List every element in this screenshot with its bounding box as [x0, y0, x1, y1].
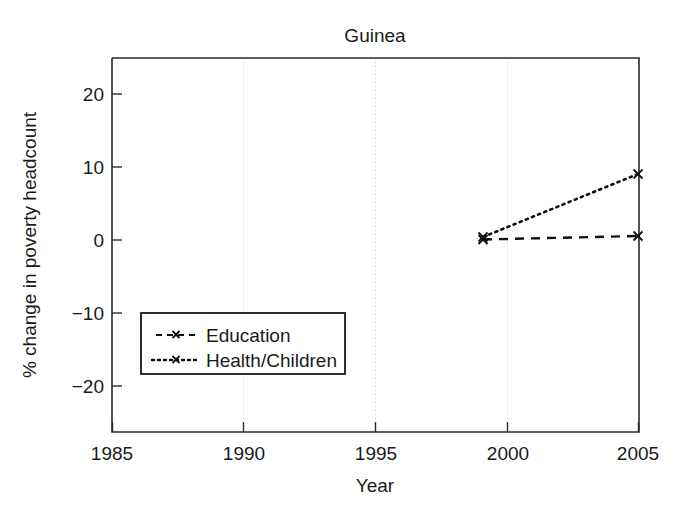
legend-label-education: Education [206, 325, 291, 346]
series-health-children-marker-2005 [634, 170, 643, 179]
line-chart-canvas: Guinea 20 10 0 −10 −20 [0, 0, 695, 516]
y-tick-labels: 20 10 0 −10 −20 [72, 84, 104, 397]
y-tick-marks [112, 94, 122, 386]
x-tick-label-2000: 2000 [487, 443, 529, 464]
x-axis-title: Year [356, 475, 395, 496]
y-tick-label-minus-10: −10 [72, 303, 104, 324]
x-tick-label-1985: 1985 [91, 443, 133, 464]
chart-figure: Guinea 20 10 0 −10 −20 [0, 0, 695, 516]
x-tick-label-1990: 1990 [223, 443, 265, 464]
y-tick-label-0: 0 [93, 230, 104, 251]
legend-label-health-children: Health/Children [206, 350, 337, 371]
chart-title: Guinea [344, 25, 406, 46]
series-health-children [479, 170, 643, 242]
series-health-children-line [483, 174, 638, 237]
series-education-line [483, 236, 638, 240]
y-tick-label-10: 10 [83, 157, 104, 178]
series-education [479, 232, 643, 245]
x-tick-marks [113, 422, 639, 432]
x-tick-label-2005: 2005 [617, 443, 659, 464]
chart-legend[interactable]: Education Health/Children [141, 313, 345, 374]
y-tick-label-minus-20: −20 [72, 376, 104, 397]
x-tick-labels: 1985 1990 1995 2000 2005 [91, 443, 659, 464]
y-tick-label-20: 20 [83, 84, 104, 105]
y-axis-title: % change in poverty headcount [19, 111, 40, 378]
x-tick-label-1995: 1995 [355, 443, 397, 464]
gridlines [244, 58, 508, 432]
